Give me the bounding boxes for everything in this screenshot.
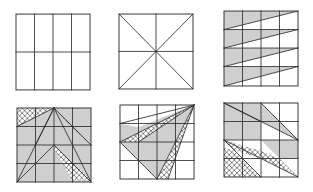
panel-hatched-diagonal-bands bbox=[224, 103, 298, 177]
panel-hatched-fan-top bbox=[17, 108, 91, 182]
figure-canvas bbox=[0, 0, 313, 192]
grid-4x2-figure bbox=[16, 14, 90, 90]
striped-triangles-figure bbox=[224, 11, 298, 86]
cross-diagonals-figure bbox=[119, 14, 193, 89]
panel-hatched-fan-corner bbox=[120, 105, 194, 179]
panel-cross-diagonals bbox=[119, 14, 193, 89]
panel-striped-triangles bbox=[224, 11, 298, 86]
hatched-fan-corner-figure bbox=[120, 105, 194, 179]
hatched-diagonal-bands-figure bbox=[224, 103, 298, 177]
panel-grid-4x2 bbox=[16, 14, 90, 90]
hatched-fan-top-figure bbox=[17, 108, 91, 182]
